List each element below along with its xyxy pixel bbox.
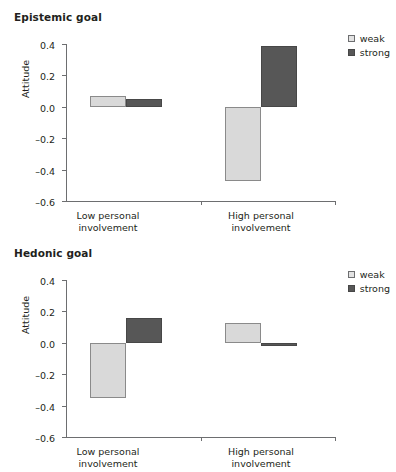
y-tick-5: –0.6: [62, 201, 66, 202]
x-group-tick-end: [335, 437, 336, 441]
y-tick-0: 0.4: [62, 280, 66, 281]
x-group-tick-end: [335, 201, 336, 205]
x-group-label-high-line2: involvement: [191, 222, 331, 234]
y-tick-label-5: –0.6: [35, 196, 55, 207]
y-tick-label-2: 0.0: [40, 338, 55, 349]
x-group-label-low: Low personal involvement: [38, 210, 178, 233]
y-tick-1: 0.2: [62, 75, 66, 76]
y-tick-label-4: –0.4: [35, 165, 55, 176]
plot-area: 0.4 0.2 0.0 –0.2 –0.4 –0.6 Low personal …: [66, 280, 342, 443]
y-tick-1: 0.2: [62, 311, 66, 312]
y-tick-5: –0.6: [62, 437, 66, 438]
x-group-label-low-line2: involvement: [38, 222, 178, 234]
legend-label-weak: weak: [360, 269, 385, 280]
legend-item-weak: weak: [348, 268, 390, 280]
bar-high-strong: [261, 343, 297, 346]
x-group-label-low: Low personal involvement: [38, 446, 178, 469]
y-tick-label-1: 0.2: [40, 70, 55, 81]
bar-high-weak: [225, 323, 261, 343]
bar-low-strong: [126, 99, 162, 107]
legend-swatch-strong-icon: [348, 285, 355, 292]
y-tick-0: 0.4: [62, 44, 66, 45]
bar-low-weak: [90, 343, 126, 398]
x-group-label-high-line1: High personal: [191, 210, 331, 222]
y-tick-label-5: –0.6: [35, 432, 55, 443]
legend-item-strong: strong: [348, 282, 390, 294]
y-axis-line: [66, 280, 67, 437]
y-tick-label-4: –0.4: [35, 401, 55, 412]
x-group-label-high-line2: involvement: [191, 458, 331, 470]
y-tick-3: –0.2: [62, 374, 66, 375]
legend-item-strong: strong: [348, 46, 390, 58]
y-tick-3: –0.2: [62, 138, 66, 139]
legend: weak strong: [348, 268, 390, 296]
panel-title: Hedonic goal: [14, 247, 92, 259]
y-tick-2: 0.0: [62, 107, 66, 108]
y-tick-4: –0.4: [62, 406, 66, 407]
y-axis-title: Attitude: [20, 60, 31, 98]
figure-two-panel-bar-charts: Epistemic goal Attitude 0.4 0.2 0.0 –0.2…: [0, 0, 396, 472]
x-group-label-high: High personal involvement: [191, 446, 331, 469]
legend-swatch-weak-icon: [348, 271, 355, 278]
legend-label-strong: strong: [360, 283, 390, 294]
x-group-tick-mid: [201, 437, 202, 441]
y-tick-label-3: –0.2: [35, 369, 55, 380]
y-tick-label-0: 0.4: [40, 39, 55, 50]
x-group-label-high: High personal involvement: [191, 210, 331, 233]
y-tick-2: 0.0: [62, 343, 66, 344]
x-group-tick-mid: [201, 201, 202, 205]
bar-high-weak: [225, 107, 261, 181]
legend-item-weak: weak: [348, 32, 390, 44]
y-tick-label-1: 0.2: [40, 306, 55, 317]
x-group-label-low-line1: Low personal: [38, 446, 178, 458]
panel-epistemic-goal: Epistemic goal Attitude 0.4 0.2 0.0 –0.2…: [0, 0, 396, 236]
y-tick-label-3: –0.2: [35, 133, 55, 144]
legend-label-weak: weak: [360, 33, 385, 44]
plot-area: 0.4 0.2 0.0 –0.2 –0.4 –0.6 Low personal …: [66, 44, 342, 207]
legend: weak strong: [348, 32, 390, 60]
bar-low-weak: [90, 96, 126, 107]
y-tick-4: –0.4: [62, 170, 66, 171]
panel-hedonic-goal: Hedonic goal Attitude 0.4 0.2 0.0 –0.2 –…: [0, 236, 396, 472]
panel-title: Epistemic goal: [14, 11, 102, 23]
x-group-label-low-line1: Low personal: [38, 210, 178, 222]
y-axis-title: Attitude: [20, 296, 31, 334]
legend-swatch-weak-icon: [348, 35, 355, 42]
y-axis-line: [66, 44, 67, 201]
y-tick-label-0: 0.4: [40, 275, 55, 286]
bar-low-strong: [126, 318, 162, 343]
legend-label-strong: strong: [360, 47, 390, 58]
y-tick-label-2: 0.0: [40, 102, 55, 113]
x-group-label-high-line1: High personal: [191, 446, 331, 458]
bar-high-strong: [261, 46, 297, 107]
legend-swatch-strong-icon: [348, 49, 355, 56]
x-group-label-low-line2: involvement: [38, 458, 178, 470]
